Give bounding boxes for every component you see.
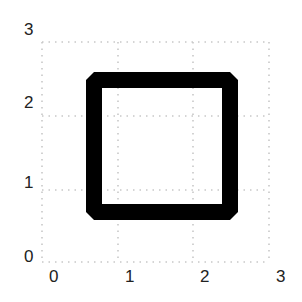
y-tick-3: 3 <box>24 20 33 39</box>
chart-svg: 0 1 2 3 0 1 2 3 <box>0 0 302 302</box>
x-tick-1: 1 <box>125 267 134 286</box>
y-tick-2: 2 <box>24 93 33 112</box>
square-outline <box>94 80 230 212</box>
x-tick-2: 2 <box>200 267 209 286</box>
x-tick-labels: 0 1 2 3 <box>49 267 285 286</box>
chart-container: 0 1 2 3 0 1 2 3 <box>0 0 302 302</box>
y-tick-0: 0 <box>24 247 33 266</box>
y-tick-labels: 0 1 2 3 <box>24 20 33 266</box>
x-tick-0: 0 <box>49 267 58 286</box>
x-tick-3: 3 <box>276 267 285 286</box>
y-tick-1: 1 <box>24 173 33 192</box>
